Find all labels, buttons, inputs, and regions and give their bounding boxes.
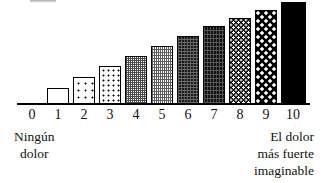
pain-scale-figure: 0 1 2 3 4 5 6 7 8 9 10 Ningún dolor El d… [0, 0, 334, 183]
tick-label-10: 10 [280, 106, 306, 123]
tick-label-4: 4 [123, 106, 149, 123]
right-anchor-line-1: El dolor [174, 128, 314, 145]
bar-6 [177, 36, 199, 104]
left-anchor-line-1: Ningún [14, 128, 144, 145]
tick-label-8: 8 [227, 106, 253, 123]
bar-7 [203, 26, 225, 104]
bar-2 [73, 77, 95, 104]
x-axis-line [17, 103, 310, 105]
tick-label-9: 9 [253, 106, 279, 123]
bar-10 [281, 2, 306, 104]
right-anchor-caption: El dolor más fuerte imaginable [174, 128, 314, 179]
right-anchor-line-2: más fuerte [174, 145, 314, 162]
x-axis-tick-labels: 0 1 2 3 4 5 6 7 8 9 10 [0, 106, 334, 123]
tick-label-2: 2 [71, 106, 97, 123]
tick-label-0: 0 [19, 106, 45, 123]
tick-label-1: 1 [45, 106, 71, 123]
left-anchor-caption: Ningún dolor [14, 128, 144, 162]
bar-4 [125, 56, 147, 104]
tick-label-5: 5 [149, 106, 175, 123]
tick-label-7: 7 [201, 106, 227, 123]
right-anchor-line-3: imaginable [174, 162, 314, 179]
tick-label-3: 3 [97, 106, 123, 123]
bar-5 [151, 46, 173, 104]
bar-3 [99, 66, 121, 104]
bar-1 [47, 88, 69, 104]
bar-8 [229, 18, 251, 104]
bar-chart-plot-area [0, 0, 334, 104]
bar-9 [255, 10, 277, 104]
tick-label-6: 6 [175, 106, 201, 123]
left-anchor-line-2: dolor [14, 145, 144, 162]
